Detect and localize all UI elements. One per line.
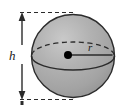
center-point: [64, 51, 72, 59]
sphere-figure: h r: [0, 0, 123, 109]
sphere-diagram-canvas: h r: [0, 0, 123, 109]
sphere-body: [32, 15, 115, 98]
radius-label: r: [88, 41, 93, 53]
height-label: h: [9, 48, 16, 63]
baseline-tick-mark: [21, 101, 24, 105]
